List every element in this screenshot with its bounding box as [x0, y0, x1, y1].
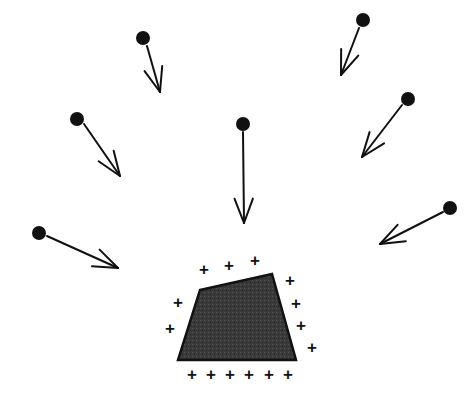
source-dot — [236, 117, 250, 131]
plus-marker: + — [244, 365, 254, 384]
plus-marker: + — [224, 256, 234, 275]
plus-marker: + — [291, 294, 301, 313]
source-dot — [136, 31, 150, 45]
source-dot — [70, 112, 84, 126]
plus-marker: + — [199, 260, 209, 279]
plus-marker: + — [283, 365, 293, 384]
diagram-svg: +++++++++++++++ — [0, 0, 474, 401]
source-dot — [443, 201, 457, 215]
plus-marker: + — [187, 365, 197, 384]
plus-marker: + — [264, 365, 274, 384]
plus-marker: + — [206, 365, 216, 384]
arrow-shaft — [243, 132, 244, 223]
source-dot — [401, 92, 415, 106]
plus-marker: + — [307, 338, 317, 357]
plus-marker: + — [296, 316, 306, 335]
source-dot — [32, 226, 46, 240]
plus-marker: + — [285, 271, 295, 290]
source-dot — [356, 13, 370, 27]
plus-marker: + — [225, 365, 235, 384]
diagram-canvas: +++++++++++++++ — [0, 0, 474, 401]
plus-marker: + — [165, 319, 175, 338]
plus-marker: + — [250, 251, 260, 270]
plus-marker: + — [173, 293, 183, 312]
